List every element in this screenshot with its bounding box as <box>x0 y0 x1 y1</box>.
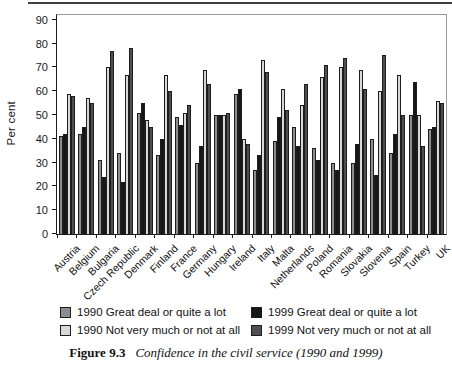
legend-swatch <box>60 307 71 318</box>
bar <box>168 91 172 234</box>
bar-group: Italy <box>252 15 271 234</box>
legend-swatch <box>251 325 262 336</box>
bar <box>226 113 230 234</box>
bar <box>324 65 328 234</box>
legend: 1990 Great deal or quite a lot1999 Great… <box>60 306 431 336</box>
bar <box>440 103 444 234</box>
y-axis-title: Per cent <box>3 14 18 233</box>
y-tick-label: 30 <box>36 156 48 170</box>
bar-group: Slovakia <box>349 15 368 234</box>
y-tick-label: 70 <box>36 60 48 74</box>
y-tick-mark <box>52 43 57 44</box>
bar-group: Poland <box>310 15 329 234</box>
plot-area: AustriaBelgiumBulgariaCzech RepublicDenm… <box>56 14 447 235</box>
bar <box>129 48 133 234</box>
figure-top-rule <box>28 2 452 4</box>
bar-group: Spain <box>388 15 407 234</box>
y-tick-mark <box>52 162 57 163</box>
y-tick-mark <box>52 90 57 91</box>
y-tick-mark <box>52 114 57 115</box>
bar <box>246 144 250 234</box>
bar <box>71 96 75 234</box>
y-tick-label: 20 <box>36 179 48 193</box>
bar-group: Belgium <box>76 15 95 234</box>
caption-text: Confidence in the civil service (1990 an… <box>135 345 382 360</box>
legend-label: 1999 Not very much or not at all <box>268 324 431 336</box>
legend-label: 1990 Not very much or not at all <box>77 324 240 336</box>
legend-item: 1999 Not very much or not at all <box>251 324 431 336</box>
bar <box>265 72 269 234</box>
bar-group: Turkey <box>407 15 426 234</box>
legend-swatch <box>251 307 262 318</box>
y-tick-mark <box>52 209 57 210</box>
bar-group: Finland <box>154 15 173 234</box>
y-tick-mark <box>52 185 57 186</box>
bar <box>421 146 425 234</box>
legend-label: 1990 Great deal or quite a lot <box>77 306 226 318</box>
y-tick-label: 0 <box>42 227 48 241</box>
y-axis-title-text: Per cent <box>5 101 17 145</box>
y-tick-label: 60 <box>36 84 48 98</box>
bar-group: Hungary <box>213 15 232 234</box>
bar-group: Germany <box>193 15 212 234</box>
y-tick-mark <box>52 19 57 20</box>
bar <box>401 115 405 234</box>
bar <box>285 110 289 234</box>
bar <box>343 58 347 234</box>
bar-groups: AustriaBelgiumBulgariaCzech RepublicDenm… <box>57 15 446 234</box>
bar <box>207 84 211 234</box>
figure-caption: Figure 9.3Confidence in the civil servic… <box>0 345 452 361</box>
bar-group: Ireland <box>232 15 251 234</box>
y-tick-label: 90 <box>36 13 48 27</box>
legend-label: 1999 Great deal or quite a lot <box>268 306 417 318</box>
bar <box>363 89 367 234</box>
bar <box>149 127 153 234</box>
y-tick-mark <box>52 233 57 234</box>
bar-group: Czech Republic <box>115 15 134 234</box>
caption-label: Figure 9.3 <box>69 345 125 360</box>
x-category-label: UK <box>433 242 452 261</box>
bar <box>110 51 114 234</box>
bar-group: France <box>174 15 193 234</box>
legend-swatch <box>60 325 71 336</box>
legend-item: 1999 Great deal or quite a lot <box>251 306 431 318</box>
bar-group: Denmark <box>135 15 154 234</box>
bar-group: Bulgaria <box>96 15 115 234</box>
y-tick-label: 80 <box>36 37 48 51</box>
y-tick-mark <box>52 138 57 139</box>
bar <box>187 105 191 234</box>
y-tick-label: 10 <box>36 203 48 217</box>
y-tick-mark <box>52 66 57 67</box>
y-tick-label: 50 <box>36 108 48 122</box>
bar <box>304 84 308 234</box>
legend-item: 1990 Not very much or not at all <box>60 324 251 336</box>
bar-group: Netherlands <box>290 15 309 234</box>
bar-group: Austria <box>57 15 76 234</box>
bar-group: Slovenia <box>368 15 387 234</box>
bar <box>382 55 386 234</box>
y-tick-label: 40 <box>36 132 48 146</box>
bar-group: Romania <box>329 15 348 234</box>
x-axis-ticks <box>57 234 446 238</box>
bar-group: Malta <box>271 15 290 234</box>
legend-item: 1990 Great deal or quite a lot <box>60 306 251 318</box>
bar <box>90 103 94 234</box>
bar-group: UK <box>427 15 446 234</box>
